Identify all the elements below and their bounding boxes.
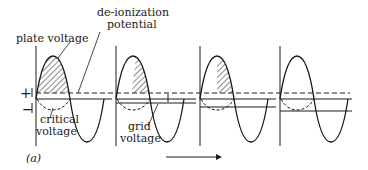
time-arrow-head [216, 154, 222, 160]
critical-voltage-curve [37, 99, 70, 110]
thyratron-control-diagram: + − plate voltage de-ionization potentia… [0, 0, 368, 170]
panel-label: (a) [26, 152, 41, 165]
label-deionization-2: potential [107, 18, 157, 31]
critical-voltage-curve [117, 99, 150, 110]
plus-sign: + [20, 85, 32, 101]
shaded-conduction-region [217, 56, 233, 93]
critical-voltage-curve [281, 99, 314, 110]
diagram-svg: + − plate voltage de-ionization potentia… [0, 0, 368, 170]
critical-voltage-curve [201, 99, 234, 110]
label-critical-2: voltage [35, 125, 77, 138]
label-grid-2: voltage [119, 132, 161, 145]
label-plate-voltage: plate voltage [16, 32, 88, 45]
shaded-conduction-region [37, 56, 69, 93]
